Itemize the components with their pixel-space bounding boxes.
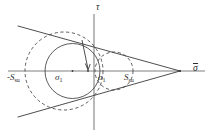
sigma-axis-label: σ [193, 63, 198, 74]
tau-axis-label: τ [96, 3, 99, 13]
apex-point [179, 70, 181, 72]
right-undrained-strength-label: Ssu [124, 73, 134, 82]
figure-canvas [0, 0, 211, 139]
sigma-intersection-tick [87, 70, 89, 72]
right-strength-subscript: su [129, 77, 134, 83]
sigma-bar-glyph: σ [193, 63, 198, 74]
left-strength-subscript: su [15, 77, 20, 83]
sigma-1-right-label: σ1 [98, 73, 105, 82]
sigma-1-left-label: σ1 [55, 73, 62, 82]
left-strength-symbol: -S [7, 72, 15, 82]
right-strength-symbol: S [124, 72, 129, 82]
mohr-circle-figure: τ σ -Ssu σ1 σ1 Ssu [0, 0, 211, 139]
sigma-center-tick [72, 70, 74, 72]
left-undrained-strength-label: -Ssu [7, 73, 20, 82]
tau-glyph: τ [96, 2, 99, 12]
